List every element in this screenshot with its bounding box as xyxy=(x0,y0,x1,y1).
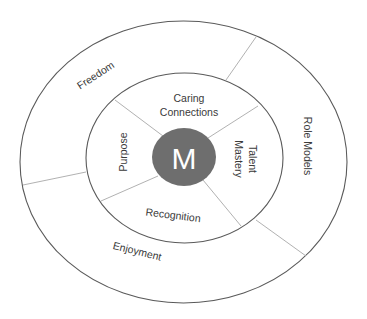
segment-label-mastery: Mastery xyxy=(233,140,245,178)
motivation-diagram: M Freedom Role Models Enjoyment Caring C… xyxy=(0,0,367,319)
segment-label-purpose: Purpose xyxy=(117,132,129,171)
segment-label-connections: Connections xyxy=(160,106,218,118)
segment-label-talent: Talent xyxy=(247,145,259,173)
center-core-label: M xyxy=(172,142,197,175)
segment-label-role-models: Role Models xyxy=(302,117,314,175)
segment-label-caring: Caring xyxy=(174,92,205,104)
